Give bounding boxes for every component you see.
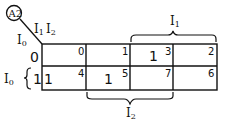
row-brace-label: I0: [4, 72, 14, 87]
cell-index: 1: [122, 46, 128, 57]
cell-value: 1: [149, 48, 158, 64]
cell-value: 1: [104, 71, 113, 87]
cell: 2: [208, 46, 214, 57]
row-var: I0: [17, 33, 27, 48]
cell-index: 5: [122, 68, 128, 79]
row-label-1: 1: [33, 71, 42, 87]
bottom-brace-label: I2: [126, 106, 136, 121]
cell-index: 3: [165, 46, 171, 57]
bottom-brace: [87, 92, 173, 104]
cell: 3 1: [149, 46, 171, 64]
karnaugh-map: A2 I1 I2 I0 0 1 I0 I1 I2 0 1 3 1 2: [0, 0, 225, 133]
grid: [42, 44, 217, 90]
cell: 4 1: [44, 68, 84, 87]
cell: 1: [122, 46, 128, 57]
row-brace: [24, 68, 31, 89]
cell: 0: [78, 46, 84, 57]
cell: 7: [165, 68, 171, 79]
cell-index: 6: [208, 68, 214, 79]
cell-index: 0: [78, 46, 84, 57]
row-label-0: 0: [30, 49, 39, 65]
cell-value: 1: [44, 71, 53, 87]
column-var-2: I2: [46, 22, 56, 37]
top-brace: [131, 31, 216, 42]
map-id-label: A2: [8, 8, 23, 19]
cell: 6: [208, 68, 214, 79]
cell-index: 7: [165, 68, 171, 79]
cell-index: 4: [78, 68, 84, 79]
cell-index: 2: [208, 46, 214, 57]
top-brace-label: I1: [170, 14, 180, 29]
cell: 5 1: [104, 68, 128, 87]
column-var-1: I1: [34, 22, 44, 37]
